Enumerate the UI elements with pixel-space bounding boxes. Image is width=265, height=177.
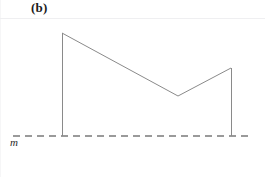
plot-canvas [0,0,265,177]
figure-panel-b: (b) m [0,0,265,177]
ascending-segment [178,68,231,96]
descending-segment [62,33,178,96]
baseline-label: m [10,136,18,149]
